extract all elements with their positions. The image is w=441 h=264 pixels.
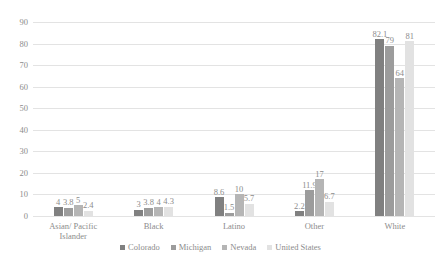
category-label: White: [343, 221, 441, 231]
bar-value-label: 4: [56, 198, 60, 207]
y-axis-tick-label: 50: [20, 104, 29, 113]
legend-label: Nevada: [230, 243, 256, 252]
legend-swatch-icon: [267, 245, 272, 250]
bar: [215, 197, 224, 216]
bar: [64, 208, 73, 216]
bar-value-label: 2.2: [294, 202, 305, 211]
bar: [235, 194, 244, 216]
y-axis-tick-label: 0: [24, 212, 28, 221]
bar-column: 4.3: [164, 22, 173, 216]
bar-column: 4: [154, 22, 163, 216]
bar-group: 33.844.3Black: [113, 22, 193, 216]
bar-column: 2.4: [84, 22, 93, 216]
plot-area: 9080706050403020100 43.852.4Asian/ Pacif…: [33, 22, 435, 216]
bar-column: 64: [395, 22, 404, 216]
bar-value-label: 8.6: [214, 188, 225, 197]
bar-column: 1.5: [225, 22, 234, 216]
bar-column: 4: [54, 22, 63, 216]
legend-item-colorado[interactable]: Colorado: [120, 243, 160, 252]
bar-group: 43.852.4Asian/ PacificIslander: [33, 22, 113, 216]
chart-legend: ColoradoMichiganNevadaUnited States: [0, 243, 441, 252]
bar-column: 5.7: [245, 22, 254, 216]
bar: [385, 46, 394, 216]
y-axis-tick-label: 60: [20, 82, 29, 91]
bar-column: 3.8: [144, 22, 153, 216]
legend-label: Colorado: [128, 243, 160, 252]
bar-column: 10: [235, 22, 244, 216]
y-axis-tick-label: 10: [20, 190, 29, 199]
bar-value-label: 3: [136, 200, 140, 209]
bar: [375, 39, 384, 216]
bar-column: 8.6: [215, 22, 224, 216]
legend-item-michigan[interactable]: Michigan: [171, 243, 212, 252]
bar: [225, 213, 234, 216]
bar-column: 5: [74, 22, 83, 216]
bar-value-label: 64: [396, 69, 405, 78]
bar: [164, 207, 173, 216]
legend-label: Michigan: [179, 243, 212, 252]
bar-column: 82.1: [375, 22, 384, 216]
bar-column: 17: [315, 22, 324, 216]
y-axis-tick-label: 30: [20, 147, 29, 156]
bar-value-label: 5: [76, 196, 80, 205]
bar-value-label: 6.7: [324, 192, 335, 201]
legend-label: United States: [275, 243, 321, 252]
bar-value-label: 10: [235, 185, 244, 194]
bar-column: 6.7: [325, 22, 334, 216]
bar-chart: 9080706050403020100 43.852.4Asian/ Pacif…: [0, 0, 441, 264]
bar-group: 8.61.5105.7Latino: [194, 22, 274, 216]
bar-groups: 43.852.4Asian/ PacificIslander33.844.3Bl…: [33, 22, 435, 216]
bar: [54, 207, 63, 216]
y-axis-tick-label: 40: [20, 126, 29, 135]
bar-value-label: 17: [315, 170, 324, 179]
bar-value-label: 4: [156, 198, 160, 207]
bar-group: 2.211.9176.7Other: [274, 22, 354, 216]
gridline: 0: [33, 216, 435, 217]
bar: [154, 207, 163, 216]
bar-value-label: 2.4: [83, 201, 94, 210]
legend-swatch-icon: [222, 245, 227, 250]
bar-set: 2.211.9176.7: [274, 22, 354, 216]
bar: [295, 211, 304, 216]
bar-column: 11.9: [305, 22, 314, 216]
bar-value-label: 79: [386, 36, 395, 45]
bar-column: 81: [405, 22, 414, 216]
bar: [245, 204, 254, 216]
bar: [395, 78, 404, 216]
bar-value-label: 5.7: [244, 194, 255, 203]
bar: [84, 211, 93, 216]
bar-value-label: 4.3: [163, 197, 174, 206]
bar-column: 3: [134, 22, 143, 216]
bar-value-label: 3.8: [143, 198, 154, 207]
bar-set: 8.61.5105.7: [194, 22, 274, 216]
legend-item-united-states[interactable]: United States: [267, 243, 321, 252]
y-axis-tick-label: 90: [20, 18, 29, 27]
y-axis-tick-label: 70: [20, 61, 29, 70]
legend-swatch-icon: [120, 245, 125, 250]
bar-set: 33.844.3: [113, 22, 193, 216]
bar: [74, 205, 83, 216]
legend-swatch-icon: [171, 245, 176, 250]
bar: [134, 210, 143, 216]
bar-column: 3.8: [64, 22, 73, 216]
bar: [144, 208, 153, 216]
y-axis-tick-label: 80: [20, 39, 29, 48]
bar-value-label: 1.5: [224, 203, 235, 212]
legend-item-nevada[interactable]: Nevada: [222, 243, 256, 252]
bar-value-label: 3.8: [63, 198, 74, 207]
bar-column: 79: [385, 22, 394, 216]
bar-set: 43.852.4: [33, 22, 113, 216]
bar: [405, 41, 414, 216]
bar: [315, 179, 324, 216]
bar: [325, 202, 334, 216]
y-axis-tick-label: 20: [20, 169, 29, 178]
bar-group: 82.1796481White: [355, 22, 435, 216]
bar: [305, 190, 314, 216]
bar-value-label: 81: [406, 32, 415, 41]
bar-set: 82.1796481: [355, 22, 435, 216]
